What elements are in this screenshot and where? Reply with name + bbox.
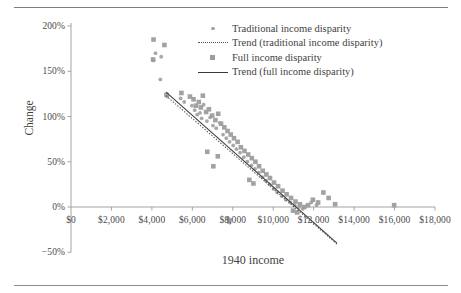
y-tick-label: −50% — [10, 247, 65, 257]
data-point-circle — [242, 155, 246, 159]
data-point-square — [151, 57, 156, 62]
data-point-circle — [211, 124, 215, 128]
data-point-square — [197, 100, 202, 105]
data-point-square — [162, 43, 167, 48]
data-point-circle — [159, 55, 163, 59]
y-tick-label: 50% — [10, 157, 65, 167]
data-point-square — [321, 190, 326, 195]
chart-legend: Traditional income disparity Trend (trad… — [196, 21, 446, 79]
data-point-circle — [221, 133, 225, 137]
data-point-square — [210, 113, 215, 118]
data-point-square — [251, 181, 256, 186]
data-point-circle — [193, 108, 197, 112]
data-point-square — [298, 202, 303, 207]
x-tick-label: $16,000 — [379, 215, 411, 225]
data-point-square — [316, 200, 321, 205]
x-tick-label: $2,000 — [98, 215, 125, 225]
dotted-line-icon — [196, 36, 230, 50]
y-tick-label: 150% — [10, 66, 65, 76]
x-tick-label: $10,000 — [257, 215, 289, 225]
legend-item-full-marker: Full income disparity — [196, 50, 446, 65]
data-point-square — [306, 203, 311, 208]
y-tick-label: 0% — [10, 202, 65, 212]
legend-label-full: Full income disparity — [230, 52, 322, 63]
data-point-square — [216, 154, 221, 159]
x-tick-label: $0 — [66, 215, 76, 225]
legend-item-full-trend: Trend (full income disparity) — [196, 65, 446, 80]
data-point-square — [179, 91, 184, 96]
legend-item-traditional-marker: Traditional income disparity — [196, 21, 446, 36]
x-tick-label: $4,000 — [139, 215, 166, 225]
data-point-square — [247, 178, 252, 183]
legend-label-traditional-trend: Trend (traditional income disparity) — [230, 37, 382, 48]
data-point-circle — [182, 100, 186, 104]
data-point-square — [257, 164, 262, 169]
data-point-square — [272, 180, 277, 185]
y-axis-title: Change — [23, 73, 35, 163]
data-point-square — [216, 111, 221, 116]
data-point-circle — [235, 147, 239, 151]
data-point-square — [392, 203, 397, 208]
data-point-square — [289, 196, 294, 201]
data-point-circle — [205, 119, 209, 123]
data-point-square — [191, 97, 196, 102]
data-point-square — [199, 105, 204, 110]
circle-marker-icon — [196, 21, 230, 35]
data-point-circle — [200, 116, 204, 120]
data-point-square — [333, 202, 338, 207]
y-tick-label: 200% — [10, 21, 65, 31]
legend-item-traditional-trend: Trend (traditional income disparity) — [196, 36, 446, 51]
legend-label-traditional: Traditional income disparity — [230, 23, 351, 34]
data-point-square — [284, 192, 289, 197]
data-point-square — [326, 196, 331, 201]
data-point-square — [293, 199, 298, 204]
data-point-circle — [238, 151, 242, 155]
data-point-circle — [190, 104, 194, 108]
legend-label-full-trend: Trend (full income disparity) — [230, 66, 354, 77]
x-tick-label: $18,000 — [419, 215, 451, 225]
data-point-circle — [179, 97, 183, 101]
x-axis-title: 1940 income — [71, 253, 435, 268]
data-point-square — [253, 159, 258, 164]
data-point-circle — [231, 144, 235, 148]
data-point-square — [280, 188, 285, 193]
data-point-square — [205, 149, 210, 154]
data-point-circle — [158, 77, 162, 81]
data-point-square — [268, 176, 273, 181]
data-point-circle — [198, 111, 202, 115]
data-point-square — [276, 184, 281, 189]
data-point-circle — [228, 140, 232, 144]
data-point-square — [213, 118, 218, 123]
square-marker-icon — [196, 50, 230, 64]
data-point-square — [311, 197, 316, 202]
x-tick-label: $8,000 — [219, 215, 246, 225]
y-tick-label: 100% — [10, 112, 65, 122]
x-tick-label: $12,000 — [298, 215, 330, 225]
data-point-square — [151, 37, 156, 42]
solid-line-icon — [196, 65, 230, 79]
data-point-circle — [154, 51, 158, 55]
data-point-circle — [224, 136, 228, 140]
data-point-square — [211, 164, 216, 169]
data-point-square — [201, 93, 206, 98]
x-tick-label: $6,000 — [179, 215, 206, 225]
data-point-circle — [214, 126, 218, 130]
data-point-square — [235, 140, 240, 145]
figure-container: −50%0%50%100%150%200%$0$2,000$4,000$6,00… — [0, 0, 461, 293]
data-point-square — [207, 107, 212, 112]
data-point-square — [291, 208, 296, 213]
x-tick-label: $14,000 — [338, 215, 370, 225]
